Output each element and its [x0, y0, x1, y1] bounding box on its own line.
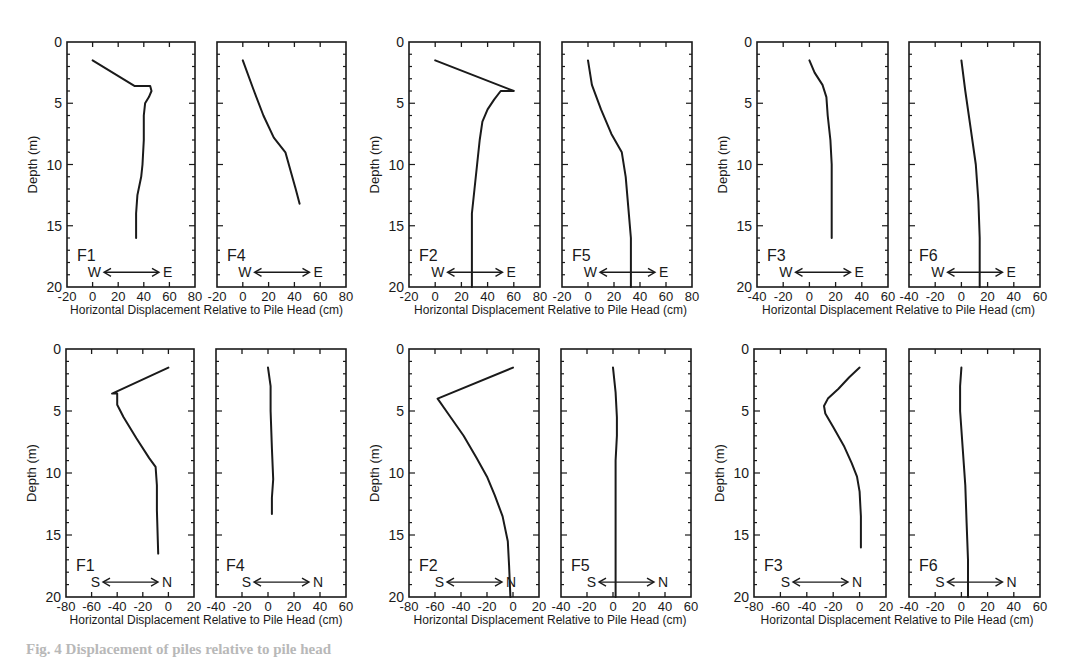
x-tick-label: 20: [187, 599, 201, 614]
y-axis-label: Depth (m): [367, 136, 382, 194]
y-tick-label: 5: [396, 95, 404, 111]
chart-panel-f2-we: -2002040608005101520Depth (m)F2WE: [367, 34, 547, 304]
x-tick-label: -60: [426, 599, 445, 614]
x-axis-label: Horizontal Displacement Relative to Pile…: [761, 613, 1034, 627]
direction-label-left: W: [779, 264, 793, 280]
y-axis-label: Depth (m): [25, 136, 40, 194]
x-tick-label: 0: [958, 599, 965, 614]
x-tick-label: 20: [632, 599, 646, 614]
x-tick-label: 0: [958, 289, 965, 304]
y-axis-label: Depth (m): [715, 136, 730, 194]
y-tick-label: 10: [388, 157, 404, 173]
direction-label-left: S: [435, 574, 444, 590]
pile-label: F1: [77, 247, 96, 264]
direction-label-left: W: [431, 264, 445, 280]
chart-panel-f2-sn: -80-60-40-2002005101520Depth (m)F2SN: [367, 341, 546, 614]
direction-label-left: S: [242, 574, 251, 590]
chart-panel-f4-sn: -40-200204060F4SN: [207, 349, 354, 614]
x-tick-label: -20: [233, 599, 252, 614]
y-tick-label: 20: [45, 589, 61, 605]
y-axis-label: Depth (m): [367, 444, 382, 502]
direction-label-right: N: [162, 574, 172, 590]
double-arrow-icon: [448, 268, 503, 276]
pile-label: F5: [571, 557, 590, 574]
x-tick-label: 20: [828, 289, 842, 304]
chart-panel-f6-we: -40-200204060F6WE: [900, 42, 1048, 304]
x-tick-label: 0: [89, 289, 96, 304]
x-tick-label: 60: [684, 599, 698, 614]
direction-label-right: N: [313, 574, 323, 590]
y-axis-label: Depth (m): [712, 444, 727, 502]
x-tick-label: -20: [133, 599, 152, 614]
x-tick-label: 40: [633, 289, 647, 304]
x-tick-label: -20: [774, 289, 793, 304]
y-tick-label: 20: [388, 279, 404, 295]
y-tick-label: 5: [54, 95, 62, 111]
y-tick-label: 0: [396, 34, 404, 50]
displacement-line: [243, 60, 300, 203]
y-tick-label: 15: [736, 218, 752, 234]
displacement-line: [824, 368, 861, 548]
x-tick-label: -60: [82, 599, 101, 614]
double-arrow-icon: [948, 578, 1003, 586]
x-tick-label: 80: [685, 289, 699, 304]
chart-panel-f1-sn: -80-60-40-2002005101520Depth (m)F1SN: [24, 341, 201, 614]
x-tick-label: 60: [659, 289, 673, 304]
x-tick-label: 40: [855, 289, 869, 304]
double-arrow-icon: [599, 578, 654, 586]
x-tick-label: 20: [879, 599, 893, 614]
pile-label: F2: [419, 247, 438, 264]
double-arrow-icon: [796, 268, 851, 276]
pile-label: F6: [919, 557, 938, 574]
y-tick-label: 10: [46, 157, 62, 173]
x-axis-label: Horizontal Displacement Relative to Pile…: [762, 303, 1035, 317]
displacement-line: [809, 60, 831, 238]
y-tick-label: 15: [733, 527, 749, 543]
direction-label-right: N: [658, 574, 668, 590]
x-tick-label: -20: [578, 599, 597, 614]
double-arrow-icon: [600, 268, 655, 276]
x-tick-label: 0: [856, 599, 863, 614]
y-tick-label: 20: [733, 589, 749, 605]
y-tick-label: 0: [744, 34, 752, 50]
y-axis-label: Depth (m): [24, 444, 39, 502]
y-tick-label: 15: [388, 218, 404, 234]
x-tick-label: -20: [208, 289, 227, 304]
x-axis-label: Horizontal Displacement Relative to Pile…: [414, 613, 687, 627]
chart-panel-f5-sn: -40-200204060F5SN: [552, 349, 699, 614]
direction-label-right: E: [1007, 264, 1016, 280]
y-tick-label: 5: [741, 403, 749, 419]
x-tick-label: 60: [1033, 599, 1047, 614]
displacement-line: [435, 60, 514, 287]
pile-label: F1: [76, 557, 95, 574]
pile-label: F5: [572, 247, 591, 264]
double-arrow-icon: [255, 268, 310, 276]
x-tick-label: 60: [507, 289, 521, 304]
y-tick-label: 10: [45, 465, 61, 481]
double-arrow-icon: [103, 578, 158, 586]
x-tick-label: 0: [609, 599, 616, 614]
displacement-line: [960, 368, 968, 597]
direction-label-right: E: [163, 264, 172, 280]
x-tick-label: 40: [658, 599, 672, 614]
direction-label-right: N: [1007, 574, 1017, 590]
displacement-line: [961, 60, 979, 287]
displacement-line: [438, 368, 513, 597]
displacement-line: [588, 60, 631, 287]
x-tick-label: 80: [339, 289, 353, 304]
x-tick-label: 60: [162, 289, 176, 304]
x-tick-label: -40: [452, 599, 471, 614]
x-tick-label: -20: [478, 599, 497, 614]
y-tick-label: 10: [736, 157, 752, 173]
y-tick-label: 20: [736, 279, 752, 295]
chart-panel-f6-sn: -40-200204060F6SN: [900, 349, 1048, 614]
x-tick-label: 40: [287, 289, 301, 304]
x-tick-label: 20: [980, 289, 994, 304]
x-axis-label: Horizontal Displacement Relative to Pile…: [70, 613, 343, 627]
x-tick-label: -40: [900, 289, 919, 304]
x-tick-label: 60: [1033, 289, 1047, 304]
y-tick-label: 15: [46, 218, 62, 234]
direction-label-left: W: [584, 264, 598, 280]
chart-panel-f5-we: -20020406080F5WE: [553, 42, 700, 304]
direction-label-right: E: [855, 264, 864, 280]
